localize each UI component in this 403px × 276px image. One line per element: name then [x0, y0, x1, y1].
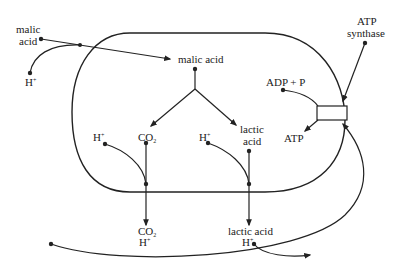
label-malic-acid-outside-2: acid	[19, 35, 38, 47]
label-co2-inside: CO2	[138, 131, 156, 144]
malic-acid-split	[151, 67, 236, 126]
label-h-plus-outside-bottom-right: H+	[242, 236, 254, 248]
h-plus-symport-arrow	[28, 43, 82, 75]
atp-synthase-pointer	[343, 41, 367, 101]
label-atp-synthase-2: synthase	[347, 27, 385, 39]
label-adp-p: ADP + P	[266, 76, 305, 88]
diagram-canvas: malic acid H+ malic acid CO2 H+ H+ lacti…	[0, 0, 403, 276]
label-lactic-acid-inside-2: acid	[243, 135, 262, 147]
label-lactic-acid-outside: lactic acid	[228, 225, 273, 237]
atp-synthase-box	[317, 106, 347, 120]
label-h-plus-inside-left: H+	[93, 131, 105, 143]
label-h-plus-outside: H+	[25, 76, 37, 88]
lactic-acid-efflux-arrow	[206, 141, 251, 225]
label-malic-acid-outside: malic	[16, 23, 41, 35]
label-lactic-acid-inside: lactic	[240, 123, 264, 135]
label-atp-synthase: ATP	[357, 15, 377, 27]
label-h-plus-outside-bottom-left: H+	[139, 236, 151, 248]
label-atp: ATP	[284, 132, 304, 144]
malolactic-fermentation-diagram: malic acid H+ malic acid CO2 H+ H+ lacti…	[0, 0, 403, 276]
co2-efflux-arrow	[103, 141, 148, 225]
adp-to-atp-arrows	[281, 88, 318, 131]
label-malic-acid-inside: malic acid	[178, 53, 224, 65]
